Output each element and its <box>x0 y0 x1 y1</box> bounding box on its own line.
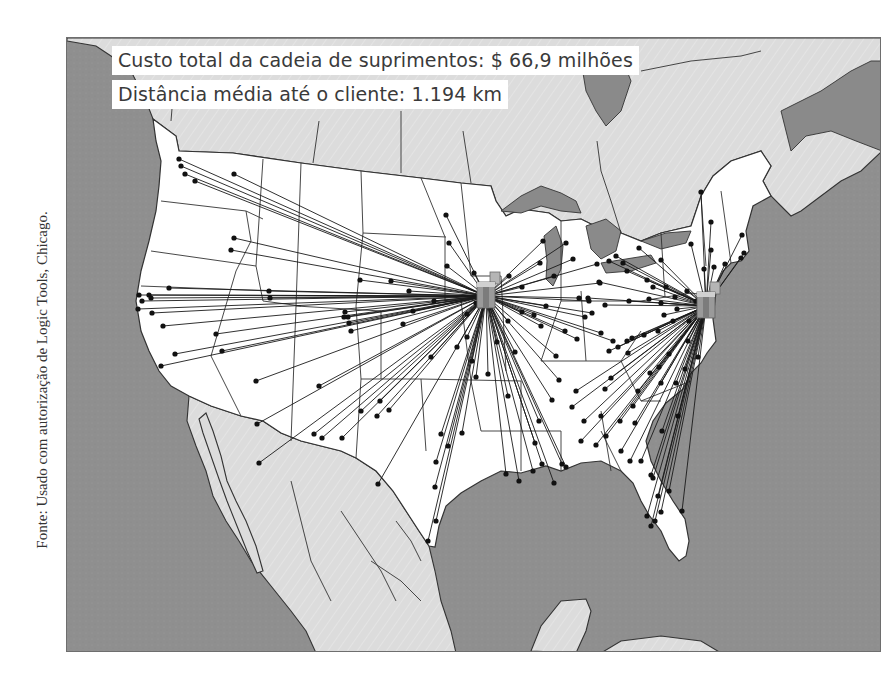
customer-location <box>582 314 587 319</box>
customer-location <box>562 328 567 333</box>
customer-location <box>176 156 181 161</box>
customer-location <box>433 518 438 523</box>
customer-location <box>471 270 476 275</box>
customer-location <box>512 349 517 354</box>
customer-location <box>578 438 583 443</box>
customer-location <box>647 370 652 375</box>
customer-location <box>519 309 524 314</box>
customer-location <box>573 388 578 393</box>
customer-location <box>160 323 165 328</box>
customer-location <box>341 314 346 319</box>
customer-location <box>701 266 706 271</box>
customer-location <box>659 428 664 433</box>
customer-location <box>679 508 684 513</box>
customer-location <box>425 538 430 543</box>
customer-location <box>254 421 259 426</box>
customer-location <box>267 295 272 300</box>
customer-location <box>644 277 649 282</box>
customer-location <box>432 484 437 489</box>
customer-location <box>658 380 663 385</box>
customer-location <box>438 431 443 436</box>
customer-location <box>646 296 651 301</box>
customer-location <box>722 261 727 266</box>
customer-location <box>581 418 586 423</box>
average-distance-label: Distância média até o cliente: 1.194 km <box>112 80 508 109</box>
customer-location <box>563 464 568 469</box>
customer-location <box>684 288 689 293</box>
customer-location <box>228 247 233 252</box>
customer-location <box>635 388 640 393</box>
customer-location <box>266 288 271 293</box>
customer-location <box>539 461 544 466</box>
customer-location <box>444 263 449 268</box>
customer-location <box>610 338 615 343</box>
customer-location <box>494 339 499 344</box>
customer-location <box>620 260 625 265</box>
customer-location <box>386 407 391 412</box>
customer-location <box>648 523 653 528</box>
customer-location <box>615 344 620 349</box>
customer-location <box>682 366 687 371</box>
customer-location <box>342 309 347 314</box>
customer-location <box>158 363 163 368</box>
customer-location <box>172 351 177 356</box>
customer-location <box>139 298 144 303</box>
customer-location <box>741 250 746 255</box>
customer-location <box>624 338 629 343</box>
customer-location <box>473 374 478 379</box>
customer-location <box>433 459 438 464</box>
customer-location <box>485 371 490 376</box>
customer-location <box>431 298 436 303</box>
customer-location <box>655 328 660 333</box>
customer-location <box>598 330 603 335</box>
customer-location <box>652 518 657 523</box>
customer-location <box>319 435 324 440</box>
customer-location <box>316 383 321 388</box>
customer-location <box>606 348 611 353</box>
customer-location <box>661 312 666 317</box>
customer-location <box>459 430 464 435</box>
customer-location <box>608 375 613 380</box>
customer-location <box>532 440 537 445</box>
customer-location <box>231 171 236 176</box>
customer-location <box>593 442 598 447</box>
customer-location <box>178 163 183 168</box>
customer-location <box>698 189 703 194</box>
customer-location <box>256 460 261 465</box>
customer-location <box>666 488 671 493</box>
customer-location <box>624 268 629 273</box>
customer-location <box>454 344 459 349</box>
customer-location <box>213 331 218 336</box>
customer-location <box>673 380 678 385</box>
customer-location <box>627 458 632 463</box>
network-map <box>66 37 881 652</box>
total-cost-label: Custo total da cadeia de suprimentos: $ … <box>112 46 639 75</box>
customer-location <box>428 354 433 359</box>
customer-location <box>538 323 543 328</box>
customer-location <box>658 509 663 514</box>
customer-location <box>519 284 524 289</box>
customer-location <box>464 334 469 339</box>
customer-location <box>576 295 581 300</box>
customer-location <box>644 513 649 518</box>
customer-location <box>606 258 611 263</box>
customer-location <box>149 310 154 315</box>
customer-location <box>505 393 510 398</box>
customer-location <box>464 311 469 316</box>
customer-location <box>603 433 608 438</box>
customer-location <box>585 295 590 300</box>
customer-location <box>708 247 713 252</box>
customer-location <box>708 219 713 224</box>
customer-location <box>594 261 599 266</box>
customer-location <box>686 318 691 323</box>
customer-location <box>377 398 382 403</box>
customer-location <box>613 253 618 258</box>
customer-location <box>670 318 675 323</box>
customer-location <box>685 338 690 343</box>
customer-location <box>602 386 607 391</box>
customer-location <box>674 306 679 311</box>
customer-location <box>688 241 693 246</box>
customer-location <box>543 303 548 308</box>
customer-location <box>551 480 556 485</box>
customer-location <box>530 468 535 473</box>
